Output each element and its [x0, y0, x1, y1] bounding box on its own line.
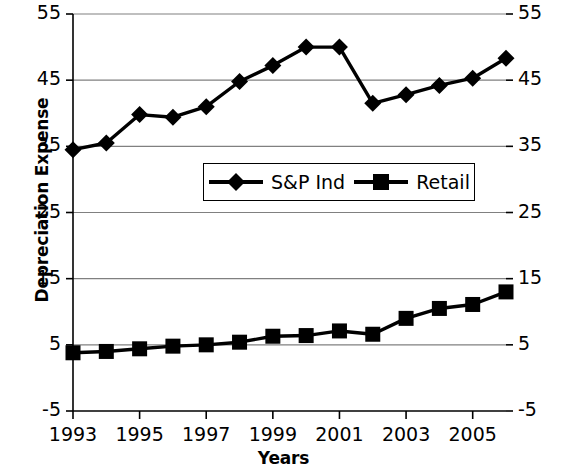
y-tick-label-right-35: 35: [518, 133, 567, 155]
data-point-0-3: [164, 109, 181, 126]
legend-marker-diamond-icon: [208, 171, 264, 193]
x-tick-label-1999: 1999: [238, 423, 308, 445]
chart-legend: S&P Ind Retail: [203, 163, 475, 201]
chart-plot-area: [0, 0, 567, 473]
data-point-0-7: [298, 39, 315, 56]
x-tick-label-1997: 1997: [171, 423, 241, 445]
data-point-0-12: [464, 70, 481, 87]
y-tick-label-left-5: 5: [11, 332, 61, 354]
y-tick-label-right-25: 25: [518, 200, 567, 222]
legend-entry-series-0: S&P Ind: [208, 171, 345, 193]
y-tick-label-left-25: 25: [11, 200, 61, 222]
y-tick-label-left-15: 15: [11, 266, 61, 288]
y-tick-label-right-55: 55: [518, 1, 567, 23]
series-line-0: [73, 47, 506, 150]
data-point-1-2: [132, 341, 147, 356]
x-axis-title: Years: [0, 448, 567, 468]
data-point-0-6: [264, 57, 281, 74]
y-tick-label-right-5: 5: [518, 332, 567, 354]
data-point-0-11: [431, 77, 448, 94]
data-point-1-9: [365, 327, 380, 342]
x-tick-label-2003: 2003: [371, 423, 441, 445]
data-point-0-0: [65, 141, 82, 158]
y-tick-label-left-35: 35: [11, 133, 61, 155]
y-tick-label-right-15: 15: [518, 266, 567, 288]
data-point-1-12: [465, 297, 480, 312]
data-point-1-8: [332, 323, 347, 338]
x-tick-label-2001: 2001: [304, 423, 374, 445]
data-point-1-13: [499, 284, 514, 299]
y-tick-label-left-45: 45: [11, 67, 61, 89]
data-point-1-7: [299, 328, 314, 343]
data-point-1-6: [265, 329, 280, 344]
data-point-1-11: [432, 301, 447, 316]
x-tick-label-1993: 1993: [38, 423, 108, 445]
data-point-1-4: [199, 337, 214, 352]
x-tick-label-1995: 1995: [105, 423, 175, 445]
data-point-0-13: [498, 50, 515, 67]
data-point-1-3: [165, 339, 180, 354]
axis-ticks: [66, 14, 513, 419]
y-tick-label-left--5: -5: [11, 398, 61, 420]
x-tick-label-2005: 2005: [438, 423, 508, 445]
legend-label-series-1: Retail: [416, 171, 470, 193]
y-tick-label-right--5: -5: [518, 398, 567, 420]
data-point-1-5: [232, 335, 247, 350]
depreciation-expense-chart: Depreciation Expense Years 55453525155-5…: [0, 0, 567, 473]
data-point-0-9: [364, 95, 381, 112]
data-point-1-10: [399, 311, 414, 326]
data-point-1-0: [66, 345, 81, 360]
data-point-1-1: [99, 344, 114, 359]
legend-marker-square-icon: [353, 171, 409, 193]
legend-label-series-0: S&P Ind: [271, 171, 345, 193]
legend-entry-series-1: Retail: [353, 171, 470, 193]
y-tick-label-left-55: 55: [11, 1, 61, 23]
data-point-0-8: [331, 39, 348, 56]
y-tick-label-right-45: 45: [518, 67, 567, 89]
data-point-0-10: [398, 86, 415, 103]
